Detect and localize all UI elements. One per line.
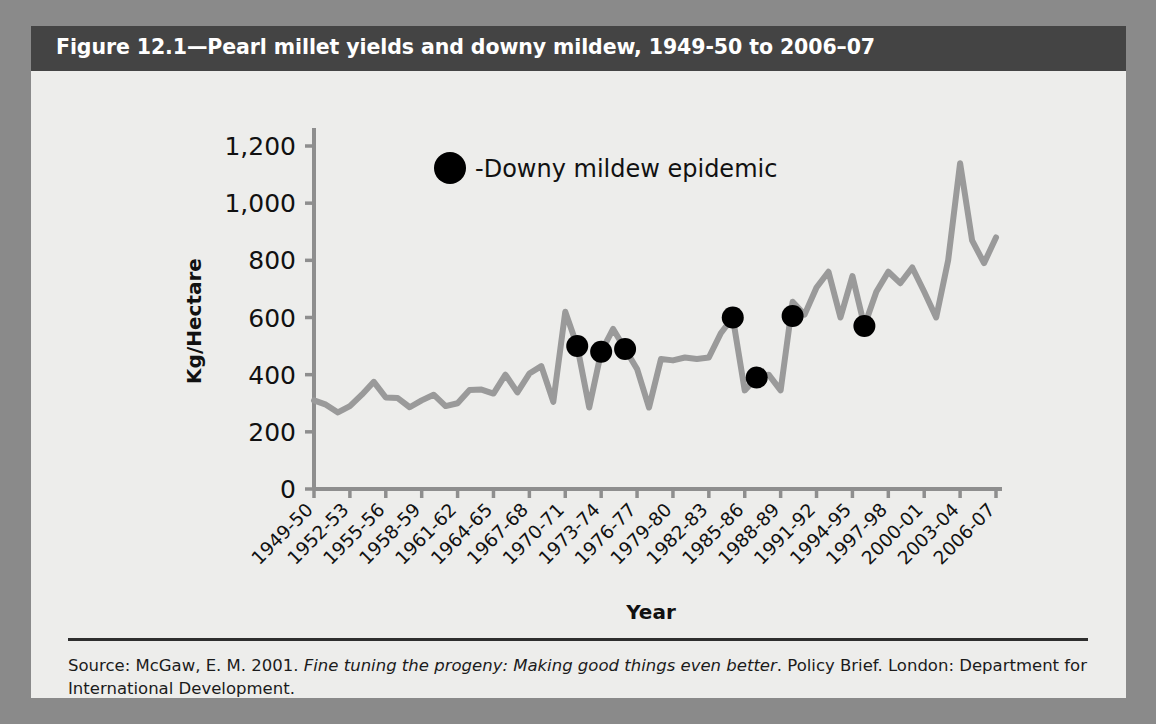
y-axis-tick-label: 400: [248, 361, 296, 390]
legend-label: -Downy mildew epidemic: [475, 155, 777, 183]
y-axis-tick-label: 1,200: [224, 132, 296, 161]
epidemic-marker: [746, 367, 768, 389]
y-axis-title: Kg/Hectare: [182, 258, 206, 384]
x-axis-title: Year: [625, 600, 676, 624]
epidemic-marker: [853, 315, 875, 337]
plot-area: 02004006008001,0001,2001949-501952-53195…: [31, 71, 1126, 641]
source-title: Fine tuning the progeny: Making good thi…: [304, 656, 777, 675]
figure-title-bar: Figure 12.1—Pearl millet yields and down…: [31, 26, 1126, 71]
y-axis-tick-label: 800: [248, 246, 296, 275]
epidemic-marker: [614, 338, 636, 360]
legend-marker-icon: [434, 152, 466, 184]
y-axis-tick-label: 200: [248, 418, 296, 447]
figure-container: Figure 12.1—Pearl millet yields and down…: [31, 26, 1126, 698]
source-note: Source: McGaw, E. M. 2001. Fine tuning t…: [68, 654, 1098, 700]
figure-title: Figure 12.1—Pearl millet yields and down…: [56, 35, 875, 59]
y-axis-tick-label: 600: [248, 304, 296, 333]
epidemic-marker: [782, 305, 804, 327]
source-divider: [68, 638, 1088, 641]
y-axis-tick-label: 1,000: [224, 189, 296, 218]
epidemic-marker: [590, 341, 612, 363]
yield-line-chart: 02004006008001,0001,2001949-501952-53195…: [31, 71, 1126, 641]
source-prefix: Source: McGaw, E. M. 2001.: [68, 656, 304, 675]
yield-line-series: [314, 163, 996, 412]
y-axis-tick-label: 0: [280, 475, 296, 504]
epidemic-marker: [722, 307, 744, 329]
epidemic-marker: [566, 335, 588, 357]
